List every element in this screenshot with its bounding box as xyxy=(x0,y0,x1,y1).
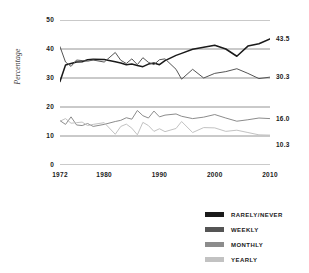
legend-swatch-icon xyxy=(205,212,224,217)
x-tick-label: 1980 xyxy=(84,171,124,178)
legend-label: WEEKLY xyxy=(231,227,259,233)
series-line xyxy=(60,47,270,79)
y-tick-label: 40 xyxy=(32,45,54,52)
y-axis-title: Percentage xyxy=(13,32,22,102)
y-tick-label: 30 xyxy=(32,74,54,81)
series-line xyxy=(60,110,270,126)
plot-svg xyxy=(60,20,270,165)
legend-swatch-icon xyxy=(205,257,224,262)
legend-label: MONTHLY xyxy=(231,242,263,248)
legend-item[interactable]: RARELY/NEVER xyxy=(205,207,283,222)
legend-label: RARELY/NEVER xyxy=(231,212,283,218)
legend-swatch-icon xyxy=(205,242,224,247)
x-tick-label: 2010 xyxy=(250,171,290,178)
legend-swatch-icon xyxy=(205,227,224,232)
y-tick-label: 50 xyxy=(32,16,54,23)
legend-item[interactable]: YEARLY xyxy=(205,252,283,267)
legend-item[interactable]: MONTHLY xyxy=(205,237,283,252)
y-tick-label: 10 xyxy=(32,132,54,139)
series-end-label: 30.3 xyxy=(276,73,289,80)
legend-item[interactable]: WEEKLY xyxy=(205,222,283,237)
y-tick-label: 20 xyxy=(32,103,54,110)
line-chart: Percentage 01020304050 19721980199020002… xyxy=(0,0,309,273)
plot-area xyxy=(60,20,270,165)
legend-label: YEARLY xyxy=(231,257,258,263)
gridlines xyxy=(60,20,270,165)
series-end-label: 10.3 xyxy=(276,141,289,148)
x-tick-label: 1990 xyxy=(139,171,179,178)
y-tick-label: 0 xyxy=(32,161,54,168)
chart-legend: RARELY/NEVERWEEKLYMONTHLYYEARLY xyxy=(205,207,283,267)
series-lines xyxy=(60,39,270,135)
series-end-label: 16.0 xyxy=(276,115,289,122)
x-tick-label: 1972 xyxy=(40,171,80,178)
x-tick-label: 2000 xyxy=(195,171,235,178)
series-end-label: 43.5 xyxy=(276,35,289,42)
